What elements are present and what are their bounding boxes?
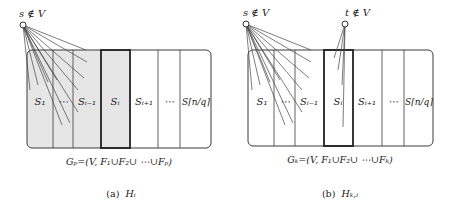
set-label: Sᵢ — [111, 96, 120, 107]
edge — [246, 24, 285, 125]
set-label: ⋯ — [280, 96, 290, 107]
source-edges — [246, 24, 311, 125]
caption-prefix: (a) — [106, 188, 119, 199]
sink-label: t ∉ V — [345, 7, 372, 18]
source-label: s ∉ V — [243, 7, 271, 18]
source-node-s — [243, 21, 249, 27]
set-label: Sᵢ₊₁ — [135, 96, 153, 107]
edge — [246, 24, 311, 62]
source-node-s — [20, 22, 26, 28]
source-label: s ∉ V — [19, 8, 47, 19]
graph-label: Gₖ=(V, F₁∪F₂∪ ⋯∪Fₖ) — [287, 154, 393, 165]
edge — [246, 24, 293, 123]
caption-symbol: Hₖ,ᵢ — [340, 188, 358, 199]
subfigure-caption: (b) Hₖ,ᵢ — [322, 188, 358, 199]
set-label: Sᵢ₋₁ — [78, 96, 96, 107]
set-label: ⋯ — [58, 96, 68, 107]
edge — [246, 24, 309, 78]
set-label: S⌈n/q⌉ — [405, 97, 433, 107]
sink-node-t — [342, 21, 348, 27]
set-label: S₁ — [35, 96, 46, 107]
subfigure-caption: (a) Hᵢ — [106, 188, 135, 199]
edge — [246, 24, 311, 50]
set-label: Sᵢ₊₁ — [358, 96, 376, 107]
set-label: S⌈n/q⌉ — [182, 97, 210, 107]
sink-edges — [334, 24, 345, 127]
caption-prefix: (b) — [322, 188, 336, 199]
set-label: S₁ — [257, 96, 268, 107]
set-label: ⋯ — [164, 96, 174, 107]
diagram-canvas: s ∉ V S₁ ⋯ Sᵢ₋₁ Sᵢ Sᵢ₊₁ ⋯ S⌈n/q⌉ Gₚ=(V, … — [0, 0, 452, 200]
set-label: Sᵢ₋₁ — [300, 96, 318, 107]
panel-b: s ∉ V t ∉ V S₁ ⋯ Sᵢ₋₁ Sᵢ Sᵢ₊₁ ⋯ S⌈n/q⌉ G… — [243, 7, 433, 199]
set-label: ⋯ — [388, 96, 398, 107]
edge — [246, 24, 252, 90]
panel-a: s ∉ V S₁ ⋯ Sᵢ₋₁ Sᵢ Sᵢ₊₁ ⋯ S⌈n/q⌉ Gₚ=(V, … — [19, 8, 211, 199]
graph-label: Gₚ=(V, F₁∪F₂∪ ⋯∪Fₚ) — [66, 156, 172, 167]
set-label: Sᵢ — [334, 96, 343, 107]
caption-symbol: Hᵢ — [124, 188, 135, 199]
